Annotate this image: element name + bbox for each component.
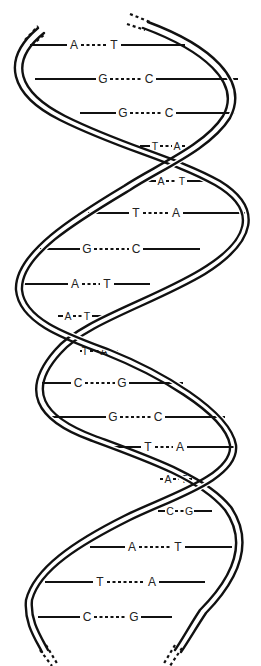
base-pair: TA	[45, 575, 205, 589]
base-pair: CG	[42, 376, 183, 390]
base-left: G	[118, 106, 127, 120]
base-left: A	[128, 540, 136, 554]
base-right: C	[132, 242, 141, 256]
base-left: A	[157, 175, 164, 187]
base-pair: GC	[48, 410, 225, 424]
base-right: A	[173, 140, 180, 152]
base-right: T	[103, 277, 111, 291]
strand-continuation-top-right	[130, 14, 150, 22]
base-pair: CG	[38, 610, 172, 624]
base-right: T	[110, 38, 118, 52]
base-left: G	[82, 242, 91, 256]
base-right: G	[185, 505, 193, 517]
dna-helix-figure: ATGCGCTAATTAGCATATTACGGCTAATCGATTACG	[0, 0, 261, 666]
base-left: T	[96, 575, 104, 589]
base-right: A	[176, 440, 184, 454]
base-left: A	[64, 310, 71, 322]
base-left: C	[83, 610, 92, 624]
base-left: C	[74, 376, 83, 390]
base-pair: AT	[90, 540, 232, 554]
base-right: T	[174, 540, 182, 554]
base-pair: GC	[80, 106, 235, 120]
base-left: G	[98, 72, 107, 86]
base-right: G	[129, 610, 138, 624]
base-left: T	[152, 140, 159, 152]
strand-continuation-bottom-right	[163, 645, 175, 665]
base-right: T	[179, 175, 186, 187]
base-right: C	[154, 410, 163, 424]
base-pair: AT	[30, 38, 185, 52]
strand-continuation-top-right-2	[127, 24, 145, 30]
backbone-strand-2-inner	[16, 28, 230, 652]
base-left: T	[144, 440, 152, 454]
strand-continuation-top-left-2	[32, 34, 45, 45]
base-right: C	[165, 106, 174, 120]
backbone-strands	[15, 14, 249, 666]
base-right: C	[145, 72, 154, 86]
base-left: C	[166, 505, 174, 517]
dna-helix-diagram: ATGCGCTAATTAGCATATTACGGCTAATCGATTACG	[0, 0, 261, 666]
base-right: A	[148, 575, 156, 589]
base-left: A	[71, 277, 79, 291]
base-pair: AT	[22, 277, 150, 291]
base-pair: GC	[35, 72, 238, 86]
base-left: T	[132, 206, 140, 220]
base-pair: GC	[40, 242, 200, 256]
base-right: G	[117, 376, 126, 390]
base-right: T	[84, 310, 91, 322]
base-left: G	[108, 410, 117, 424]
base-right: A	[172, 206, 180, 220]
base-pair-rungs: ATGCGCTAATTAGCATATTACGGCTAATCGATTACG	[22, 38, 245, 624]
base-pair: TA	[88, 206, 245, 220]
base-left: A	[70, 38, 78, 52]
backbone-strand-1-outer	[15, 28, 243, 650]
